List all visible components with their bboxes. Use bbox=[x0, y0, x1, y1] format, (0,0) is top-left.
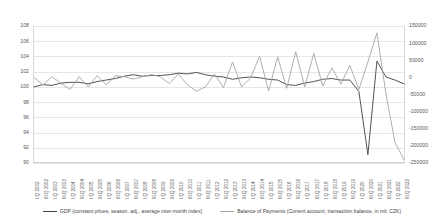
gridline bbox=[33, 163, 405, 164]
x-axis-tick-label: I.Q 2005 bbox=[90, 181, 95, 199]
right-axis-tick-label: -150000 bbox=[409, 126, 443, 131]
x-axis-tick-label: I.Q 2015 bbox=[270, 181, 275, 199]
left-axis-tick-label: 92 bbox=[0, 145, 29, 150]
x-axis-tick-label: III.Q 2007 bbox=[135, 179, 140, 199]
series-lines bbox=[33, 26, 405, 163]
chart-container: 9092949698100102104106108 -250000-200000… bbox=[0, 0, 444, 222]
x-axis-tick-label: I.Q 2006 bbox=[108, 181, 113, 199]
right-axis-tick-label: 50000 bbox=[409, 58, 443, 63]
left-axis-tick-label: 106 bbox=[0, 39, 29, 44]
series-line bbox=[34, 61, 404, 155]
x-axis-tick-label: III.Q 2017 bbox=[316, 179, 321, 199]
right-axis-tick-label: 150000 bbox=[409, 23, 443, 28]
x-axis-tick-label: III.Q 2004 bbox=[81, 179, 86, 199]
x-axis-tick-label: I.Q 2018 bbox=[325, 181, 330, 199]
x-axis-tick-label: I.Q 2004 bbox=[72, 181, 77, 199]
x-axis-tick-label: I.Q 2003 bbox=[54, 181, 59, 199]
right-axis-tick-label: -50000 bbox=[409, 92, 443, 97]
left-axis-tick-label: 102 bbox=[0, 69, 29, 74]
legend-item-balance-of-payments: Balance of Payments (Current account, tr… bbox=[220, 208, 401, 214]
x-axis-tick-label: I.Q 2014 bbox=[252, 181, 257, 199]
x-axis-tick-label: III.Q 2013 bbox=[243, 179, 248, 199]
x-axis-tick-label: III.Q 2006 bbox=[117, 179, 122, 199]
x-axis-tick-label: III.Q 2012 bbox=[225, 179, 230, 199]
x-axis-tick-label: I.Q 2013 bbox=[234, 181, 239, 199]
left-axis-tick-label: 108 bbox=[0, 23, 29, 28]
x-axis-tick-label: III.Q 2016 bbox=[297, 179, 302, 199]
legend-line-icon-gdp bbox=[43, 211, 57, 212]
right-axis-tick-label: 0 bbox=[409, 75, 443, 80]
chart-legend: GDP (constant prices, season. adj., aver… bbox=[0, 205, 444, 217]
right-axis-tick-label: -100000 bbox=[409, 109, 443, 114]
x-axis-tick-label: I.Q 2017 bbox=[306, 181, 311, 199]
x-axis-tick-label: I.Q 2016 bbox=[288, 181, 293, 199]
left-axis-tick-label: 90 bbox=[0, 160, 29, 165]
x-axis-tick-label: III.Q 2002 bbox=[45, 179, 50, 199]
x-axis-tick-label: I.Q 2010 bbox=[180, 181, 185, 199]
x-axis-tick-label: III.Q 2014 bbox=[261, 179, 266, 199]
x-axis-tick-label: I.Q 2007 bbox=[126, 181, 131, 199]
x-axis-tick-label: I.Q 2012 bbox=[216, 181, 221, 199]
legend-label-balance-of-payments: Balance of Payments (Current account, tr… bbox=[237, 208, 401, 214]
series-line bbox=[34, 33, 404, 160]
x-axis-tick-label: I.Q 2002 bbox=[36, 181, 41, 199]
x-axis-tick-label: III.Q 2019 bbox=[352, 179, 357, 199]
x-axis-tick-label: I.Q 2009 bbox=[162, 181, 167, 199]
right-axis-tick-label: -250000 bbox=[409, 160, 443, 165]
legend-line-icon-balance-of-payments bbox=[220, 211, 234, 212]
x-axis-tick-label: I.Q 2020 bbox=[361, 181, 366, 199]
x-axis-tick-label: III.Q 2009 bbox=[171, 179, 176, 199]
x-axis-tick-label: I.Q 2019 bbox=[343, 181, 348, 199]
x-axis-tick-label: III.Q 2005 bbox=[99, 179, 104, 199]
right-axis-tick-label: 100000 bbox=[409, 41, 443, 46]
left-axis-tick-label: 100 bbox=[0, 84, 29, 89]
left-axis-tick-label: 104 bbox=[0, 54, 29, 59]
x-axis-tick-label: III.Q 2018 bbox=[334, 179, 339, 199]
left-axis-tick-label: 96 bbox=[0, 115, 29, 120]
x-axis-tick-label: I.Q 2021 bbox=[379, 181, 384, 199]
x-axis-tick-label: III.Q 2010 bbox=[189, 179, 194, 199]
plot-area bbox=[33, 26, 405, 163]
legend-label-gdp: GDP (constant prices, season. adj., aver… bbox=[60, 208, 202, 214]
x-axis-tick-label: I.Q 2011 bbox=[198, 182, 203, 199]
x-axis-tick-label: III.Q 2022 bbox=[406, 179, 411, 199]
left-axis-tick-label: 94 bbox=[0, 130, 29, 135]
x-axis-tick-label: III.Q 2020 bbox=[370, 179, 375, 199]
x-axis-tick-label: III.Q 2015 bbox=[279, 179, 284, 199]
legend-item-gdp: GDP (constant prices, season. adj., aver… bbox=[43, 208, 202, 214]
left-axis-tick-label: 98 bbox=[0, 100, 29, 105]
x-axis-tick-label: I.Q 2008 bbox=[144, 181, 149, 199]
x-axis-tick-label: I.Q 2022 bbox=[397, 181, 402, 199]
x-axis-tick-label: III.Q 2021 bbox=[388, 179, 393, 199]
x-axis-tick-label: III.Q 2011 bbox=[207, 179, 212, 199]
x-axis-tick-label: III.Q 2008 bbox=[153, 179, 158, 199]
x-axis-tick-label: III.Q 2003 bbox=[63, 179, 68, 199]
right-axis-tick-label: -200000 bbox=[409, 143, 443, 148]
